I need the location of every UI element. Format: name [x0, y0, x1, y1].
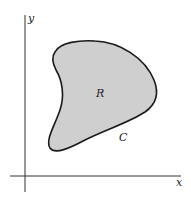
region-diagram: y x R C [0, 0, 191, 201]
x-axis-label: x [176, 176, 183, 189]
y-axis-label: y [27, 12, 35, 25]
region-label: R [95, 87, 104, 100]
curve-label: C [119, 131, 128, 144]
figure-canvas: y x R C [0, 0, 191, 201]
